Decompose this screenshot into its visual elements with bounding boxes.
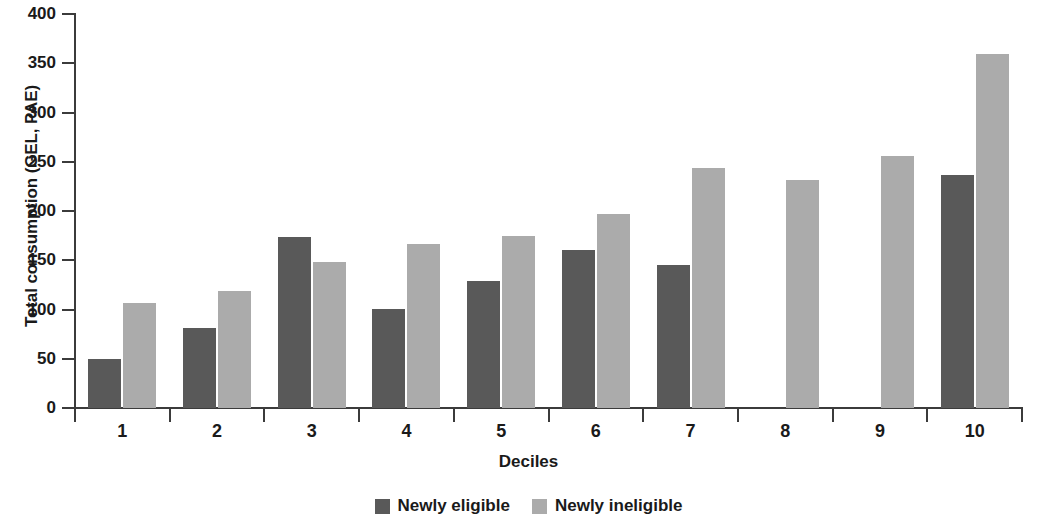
legend-item-newly-ineligible: Newly ineligible <box>532 496 683 516</box>
x-axis-tick <box>548 409 550 422</box>
bar-newly-ineligible-decile-10 <box>976 54 1009 408</box>
y-axis-tick <box>62 13 75 15</box>
legend-item-newly-eligible: Newly eligible <box>375 496 510 516</box>
bar-newly-eligible-decile-1 <box>88 359 121 408</box>
x-axis-tick-label: 9 <box>840 421 920 442</box>
x-axis-tick-label: 3 <box>272 421 352 442</box>
x-axis-tick-label: 4 <box>366 421 446 442</box>
x-axis-tick-label: 5 <box>461 421 541 442</box>
y-axis-tick <box>62 358 75 360</box>
x-axis-tick-label: 8 <box>745 421 825 442</box>
legend-swatch-icon <box>375 499 390 514</box>
y-axis-tick-label: 200 <box>0 201 56 221</box>
x-axis-tick-label: 7 <box>651 421 731 442</box>
y-axis-tick <box>62 62 75 64</box>
bar-newly-ineligible-decile-7 <box>692 168 725 408</box>
x-axis-tick <box>453 409 455 422</box>
legend-label: Newly eligible <box>398 496 510 516</box>
y-axis-tick <box>62 259 75 261</box>
x-axis-title: Deciles <box>0 452 1057 472</box>
x-axis-tick-label: 10 <box>935 421 1015 442</box>
bar-newly-ineligible-decile-3 <box>313 262 346 408</box>
y-axis-tick <box>62 210 75 212</box>
bar-newly-ineligible-decile-6 <box>597 214 630 408</box>
x-axis-tick <box>1021 409 1023 422</box>
y-axis-tick-label: 100 <box>0 300 56 320</box>
bar-chart: Total consumption (GEL, PAE) 05010015020… <box>0 0 1057 527</box>
y-axis-tick-label: 0 <box>0 398 56 418</box>
bar-newly-eligible-decile-7 <box>657 265 690 408</box>
y-axis-tick-label: 150 <box>0 250 56 270</box>
x-axis-tick <box>926 409 928 422</box>
bar-newly-ineligible-decile-4 <box>407 244 440 408</box>
bar-newly-eligible-decile-5 <box>467 281 500 408</box>
y-axis-tick-label: 250 <box>0 152 56 172</box>
bar-newly-eligible-decile-6 <box>562 250 595 408</box>
chart-legend: Newly eligibleNewly ineligible <box>0 496 1057 516</box>
x-axis-tick <box>169 409 171 422</box>
x-axis-tick <box>642 409 644 422</box>
x-axis-tick-label: 2 <box>177 421 257 442</box>
y-axis-tick-label: 350 <box>0 53 56 73</box>
bar-newly-eligible-decile-4 <box>372 309 405 408</box>
bar-newly-eligible-decile-3 <box>278 237 311 408</box>
x-axis-tick-label: 6 <box>556 421 636 442</box>
y-axis-tick <box>62 161 75 163</box>
legend-label: Newly ineligible <box>555 496 683 516</box>
bar-newly-ineligible-decile-5 <box>502 236 535 408</box>
bar-newly-eligible-decile-2 <box>183 328 216 408</box>
plot-area <box>75 14 1022 408</box>
bar-newly-ineligible-decile-9 <box>881 156 914 408</box>
y-axis-tick <box>62 309 75 311</box>
y-axis-tick <box>62 112 75 114</box>
y-axis-tick-label: 300 <box>0 103 56 123</box>
bar-newly-ineligible-decile-1 <box>123 303 156 408</box>
y-axis-tick-label: 400 <box>0 4 56 24</box>
x-axis-tick <box>737 409 739 422</box>
bar-newly-ineligible-decile-8 <box>786 180 819 408</box>
x-axis-tick <box>263 409 265 422</box>
x-axis-tick <box>74 409 76 422</box>
x-axis-tick <box>358 409 360 422</box>
bar-newly-eligible-decile-10 <box>941 175 974 408</box>
x-axis-tick-label: 1 <box>82 421 162 442</box>
y-axis-tick-label: 50 <box>0 349 56 369</box>
bar-newly-ineligible-decile-2 <box>218 291 251 408</box>
legend-swatch-icon <box>532 499 547 514</box>
x-axis-tick <box>832 409 834 422</box>
